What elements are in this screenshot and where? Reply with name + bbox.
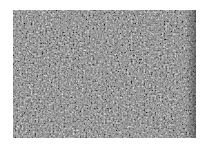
noise-texture-svg — [13, 10, 196, 138]
texture-edge-shadow — [186, 10, 196, 138]
noise-texture-image — [13, 10, 196, 138]
